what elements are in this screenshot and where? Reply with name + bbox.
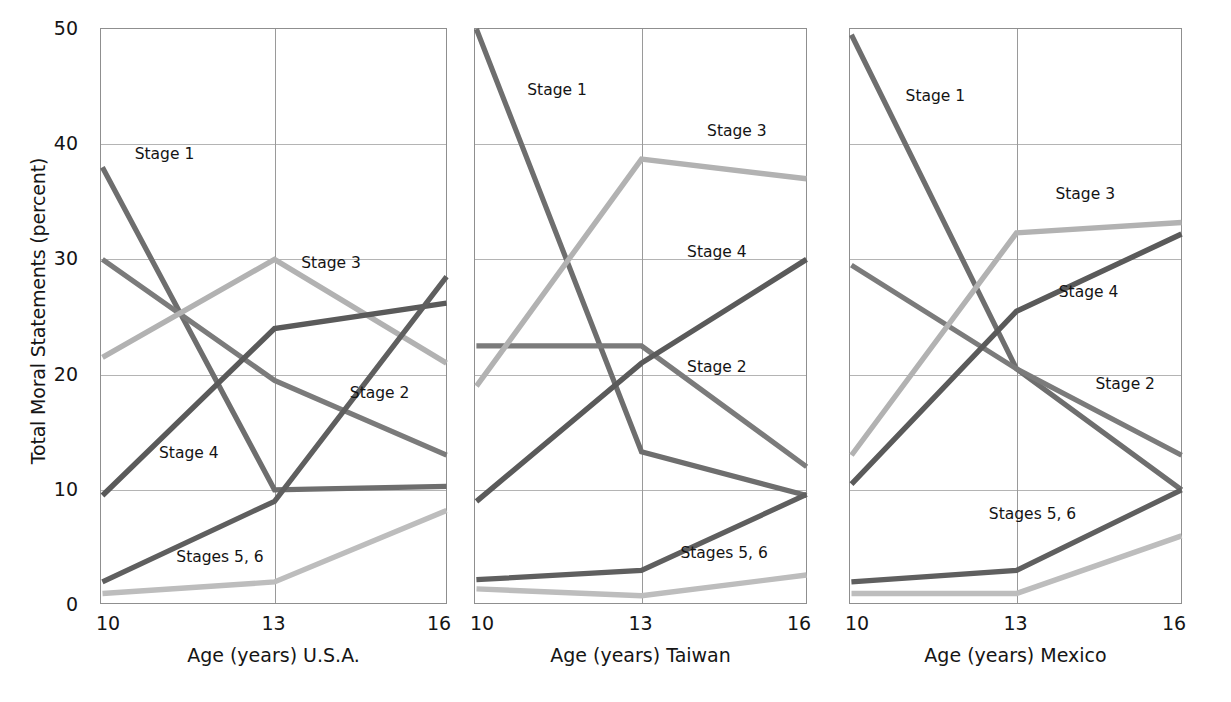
series-line-stage4 [477,259,807,501]
x-axis-tick-label: 10 [845,612,869,634]
series-lines [475,29,808,605]
series-annotation: Stage 1 [527,81,587,99]
series-annotation: Stage 3 [1055,185,1115,203]
series-annotation: Stage 2 [1095,375,1155,393]
y-axis-tick-label: 0 [66,593,78,615]
series-annotation: Stage 4 [687,243,747,261]
series-annotation: Stage 3 [301,254,361,272]
chart-panel-usa: 101316Age (years) U.S.A. [100,0,447,702]
y-axis-tick-label: 40 [54,132,78,154]
series-annotation: Stage 2 [687,358,747,376]
figure-root: Total Moral Statements (percent) 0102030… [0,0,1231,702]
series-line-stage56_dark [476,494,806,579]
series-annotation: Stage 2 [350,384,410,402]
x-axis-tick-label: 13 [1003,612,1027,634]
series-annotation: Stage 4 [159,444,219,462]
x-axis-tick-label: 16 [1162,612,1186,634]
series-annotation: Stages 5, 6 [989,505,1076,523]
series-annotation: Stages 5, 6 [680,544,767,562]
series-line-stage56_dark [102,277,446,582]
series-lines [101,29,448,605]
series-line-stage1 [476,29,806,496]
x-axis-title: Age (years) U.S.A. [187,644,360,666]
x-axis-tick-label: 13 [628,612,652,634]
x-axis-tick-label: 10 [96,612,120,634]
series-annotation: Stage 4 [1059,283,1119,301]
series-annotation: Stages 5, 6 [176,548,263,566]
x-axis-tick-label: 10 [470,612,494,634]
x-axis-title: Age (years) Mexico [924,644,1106,666]
series-annotation: Stage 1 [906,87,966,105]
y-axis-tick-label: 10 [54,478,78,500]
y-axis-tick-label: 50 [54,17,78,39]
chart-panel-mexico: 101316Age (years) Mexico [849,0,1182,702]
series-line-stage56_light [103,511,447,594]
series-annotation: Stage 3 [707,122,767,140]
x-axis-tick-label: 13 [261,612,285,634]
x-axis-tick-label: 16 [427,612,451,634]
y-axis-tick-label: 20 [54,363,78,385]
plot-area [474,28,807,604]
x-axis-tick-label: 16 [787,612,811,634]
series-line-stage2 [102,259,446,455]
series-line-stage56_light [852,536,1182,594]
series-line-stage2 [851,265,1181,455]
x-axis-title: Age (years) Taiwan [550,644,731,666]
y-axis-ticks: 01020304050 [42,0,78,702]
series-line-stage1 [851,35,1181,490]
series-line-stage3 [477,159,807,386]
series-line-stage4 [852,234,1182,484]
chart-panel-taiwan: 101316Age (years) Taiwan [474,0,807,702]
series-line-stage56_dark [851,490,1181,582]
series-annotation: Stage 1 [135,145,195,163]
plot-area [100,28,447,604]
y-axis-tick-label: 30 [54,247,78,269]
